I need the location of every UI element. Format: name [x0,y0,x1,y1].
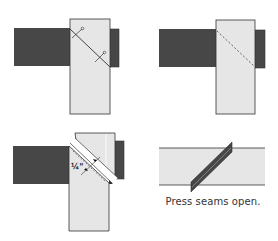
panel-3-trim: ¼" [13,133,124,231]
quarter-inch-label: ¼" [71,162,83,172]
light-strip-vertical [216,20,255,114]
dark-strip-tab [254,30,265,68]
dark-strip-horizontal [13,146,70,184]
panel-2-stitch-diagonal [159,20,265,114]
panel-1-pin-diagonal [14,19,119,114]
light-strip-vertical [70,19,110,114]
press-seams-caption: Press seams open. [158,196,268,207]
dark-strip-tab [109,29,119,67]
dark-strip-tab [114,141,124,179]
panel-4-press-open [159,142,265,192]
dark-strip-horizontal [14,28,71,66]
dark-strip-horizontal [159,29,217,67]
